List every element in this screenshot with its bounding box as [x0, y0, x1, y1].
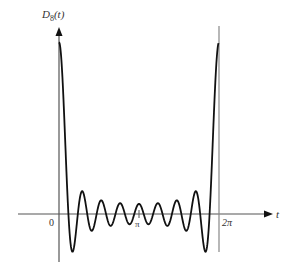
tick-label-2pi: 2π: [222, 217, 233, 228]
y-axis-arrow-icon: [56, 27, 63, 36]
tick-label-pi: π: [135, 219, 140, 229]
y-axis-label: D8(t): [41, 8, 65, 23]
dirichlet-kernel-plot: D8(t) t 0 π 2π: [0, 0, 290, 278]
x-axis-label: t: [276, 208, 280, 220]
tick-label-0: 0: [49, 217, 54, 228]
x-axis-arrow-icon: [264, 211, 273, 218]
